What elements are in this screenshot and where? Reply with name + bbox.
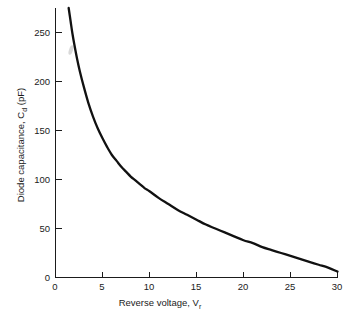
y-tick-label-150: 150 [34, 125, 50, 136]
paper-smudge-mark [68, 45, 75, 56]
chart-figure: 0 50 100 150 200 250 0 5 10 15 20 25 30 [0, 0, 358, 318]
x-tick-label-25: 25 [285, 281, 296, 292]
x-axis-title: Reverse voltage, Vr [119, 297, 202, 310]
x-axis-title-subscript: r [199, 303, 202, 310]
y-tick-label-100: 100 [34, 174, 50, 185]
y-axis-title-text: Diode capacitance, C [15, 112, 26, 202]
y-tick-label-0: 0 [45, 272, 50, 283]
svg-text:Diode capacitance, Cd (pF): Diode capacitance, Cd (pF) [15, 88, 28, 202]
y-tick-marks [56, 33, 62, 278]
x-tick-marks [56, 272, 338, 278]
y-axis-title-unit: (pF) [15, 88, 26, 108]
x-tick-label-10: 10 [144, 281, 155, 292]
y-tick-label-50: 50 [39, 223, 50, 234]
x-axis-title-text: Reverse voltage, V [119, 297, 200, 308]
x-tick-label-20: 20 [238, 281, 249, 292]
x-tick-label-15: 15 [191, 281, 202, 292]
x-tick-labels: 0 5 10 15 20 25 30 [52, 281, 342, 292]
capacitance-curve [69, 8, 338, 272]
x-tick-label-5: 5 [99, 281, 104, 292]
y-tick-label-200: 200 [34, 76, 50, 87]
y-tick-labels: 0 50 100 150 200 250 [34, 27, 50, 283]
x-tick-label-0: 0 [52, 281, 57, 292]
y-tick-label-250: 250 [34, 27, 50, 38]
y-axis-title: Diode capacitance, Cd (pF) [15, 88, 28, 202]
svg-text:Reverse voltage, Vr: Reverse voltage, Vr [119, 297, 202, 310]
x-tick-label-30: 30 [332, 281, 343, 292]
axes-group [56, 8, 338, 278]
diode-capacitance-plot: 0 50 100 150 200 250 0 5 10 15 20 25 30 [0, 0, 358, 318]
